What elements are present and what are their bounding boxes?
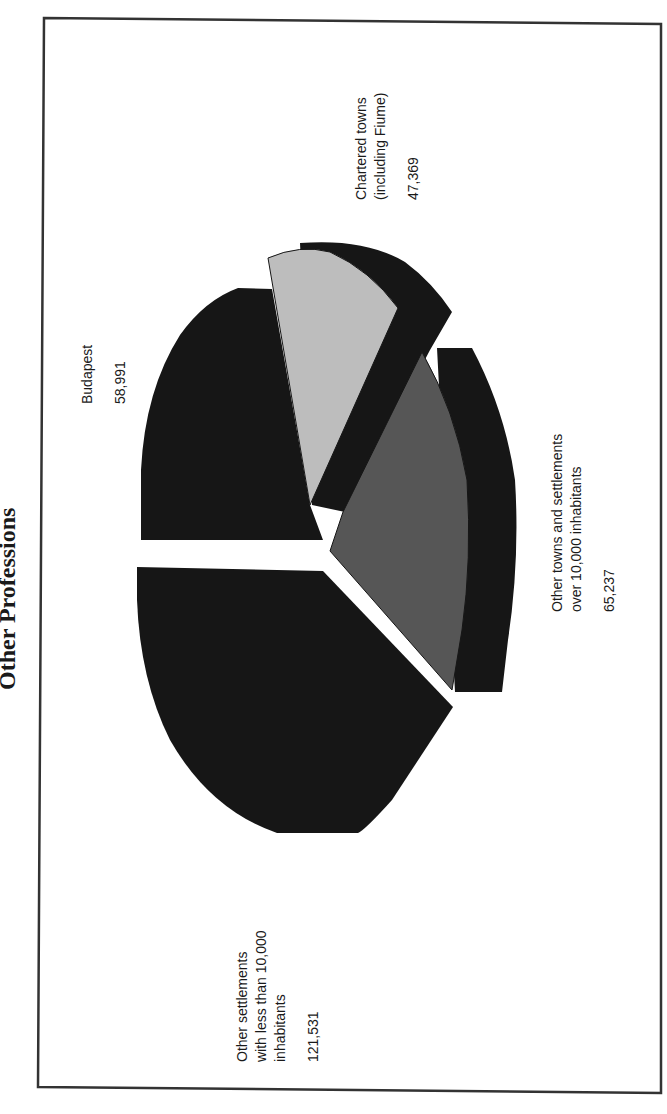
label-other-towns-value: 65,237 [600,434,619,612]
label-chartered: Chartered towns (including Fiume) 47,369 [352,93,423,200]
chart-page: Other Professions Budapest 58,991 Charte… [0,0,667,1114]
label-chartered-value: 47,369 [404,93,423,200]
label-other-settlements-line2: with less than 10,000 [252,930,271,1062]
label-other-settlements-value: 121,531 [304,930,323,1062]
label-budapest-value: 58,991 [111,345,130,404]
label-other-towns: Other towns and settlements over 10,000 … [548,434,619,612]
label-budapest: Budapest 58,991 [78,345,130,404]
chart-title: Other Professions [0,508,21,690]
label-other-settlements-line1: Other settlements [233,930,252,1062]
label-chartered-line1: Chartered towns [352,93,371,200]
label-other-settlements: Other settlements with less than 10,000 … [233,930,323,1062]
label-other-settlements-line3: inhabitants [271,930,290,1062]
label-budapest-name: Budapest [78,345,97,404]
label-other-towns-line2: over 10,000 inhabitants [567,434,586,612]
label-other-towns-line1: Other towns and settlements [548,434,567,612]
label-chartered-line2: (including Fiume) [371,93,390,200]
